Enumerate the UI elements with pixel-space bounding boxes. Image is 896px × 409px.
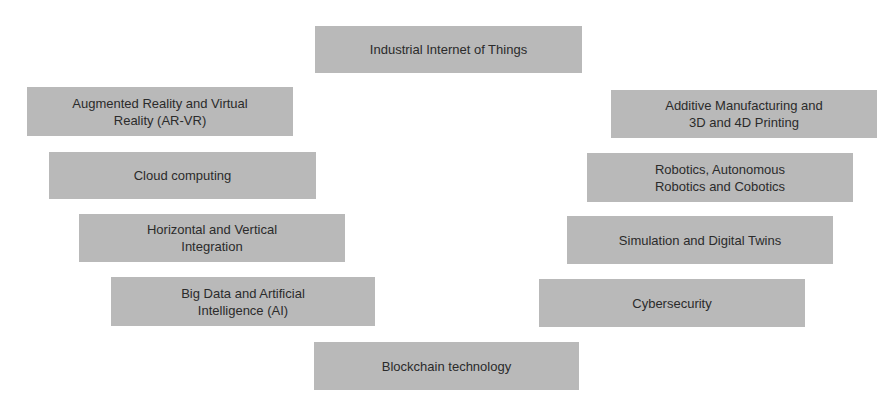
node-label: Big Data and Artificial Intelligence (AI…: [181, 285, 305, 319]
node-cloud-computing: Cloud computing: [49, 152, 316, 199]
node-additive-manufacturing: Additive Manufacturing and 3D and 4D Pri…: [611, 90, 877, 138]
node-big-data-ai: Big Data and Artificial Intelligence (AI…: [111, 277, 375, 326]
node-label: Cybersecurity: [632, 295, 711, 312]
node-label: Industrial Internet of Things: [370, 41, 527, 58]
node-label: Blockchain technology: [382, 358, 511, 375]
node-label: Cloud computing: [134, 167, 232, 184]
node-simulation-digital-twins: Simulation and Digital Twins: [567, 216, 833, 264]
node-industrial-iot: Industrial Internet of Things: [315, 26, 582, 73]
node-label: Horizontal and Vertical Integration: [147, 221, 277, 255]
node-label: Augmented Reality and Virtual Reality (A…: [72, 95, 247, 129]
node-label: Robotics, Autonomous Robotics and Coboti…: [655, 161, 785, 195]
node-horizontal-vertical-integration: Horizontal and Vertical Integration: [79, 214, 345, 262]
node-blockchain: Blockchain technology: [314, 342, 579, 390]
node-robotics: Robotics, Autonomous Robotics and Coboti…: [587, 153, 853, 202]
node-cybersecurity: Cybersecurity: [539, 279, 805, 327]
node-label: Additive Manufacturing and 3D and 4D Pri…: [665, 97, 823, 131]
node-ar-vr: Augmented Reality and Virtual Reality (A…: [27, 87, 293, 136]
node-label: Simulation and Digital Twins: [619, 232, 781, 249]
